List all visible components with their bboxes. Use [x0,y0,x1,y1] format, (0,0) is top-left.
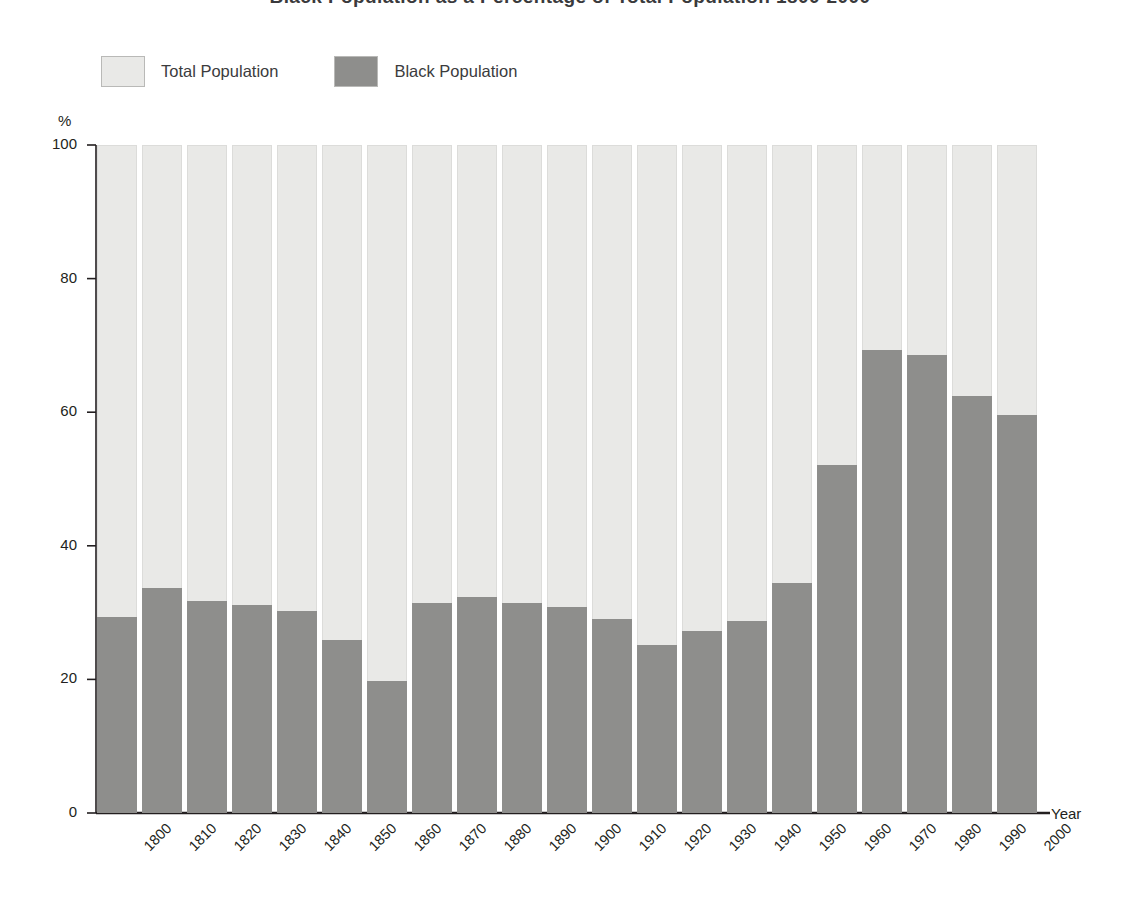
bar-black-population-1850 [322,640,362,813]
bar-black-population-1980 [907,355,947,813]
y-tick-label-20: 20 [31,669,77,686]
bar-black-population-1800 [97,617,137,813]
bar-black-population-1990 [952,396,992,813]
x-axis-title: Year [1051,805,1081,822]
bar-black-population-1810 [142,588,182,813]
bar-black-population-1820 [187,601,227,813]
bar-black-population-1860 [367,681,407,813]
bar-black-population-1930 [682,631,722,813]
y-tick-label-100: 100 [31,135,77,152]
bar-black-population-1900 [547,607,587,813]
bar-black-population-1920 [637,645,677,813]
y-tick-label-80: 80 [31,269,77,286]
y-axis-unit-label: % [58,112,71,129]
bar-black-population-1880 [457,597,497,813]
bar-black-population-1960 [817,465,857,813]
bar-black-population-1840 [277,611,317,813]
bar-black-population-1910 [592,619,632,813]
bar-black-population-1830 [232,605,272,813]
y-tick-label-0: 0 [31,803,77,820]
chart-plot-area: 020406080100 180018101820183018401850186… [0,0,1140,913]
y-tick-label-40: 40 [31,536,77,553]
bar-black-population-1950 [772,583,812,813]
y-tick-label-60: 60 [31,402,77,419]
bar-black-population-1870 [412,603,452,813]
bar-black-population-2000 [997,415,1037,813]
bar-black-population-1890 [502,603,542,813]
bar-black-population-1970 [862,350,902,813]
bar-black-population-1940 [727,621,767,813]
